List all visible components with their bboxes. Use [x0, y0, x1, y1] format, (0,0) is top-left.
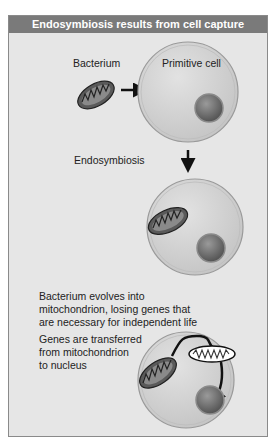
transfer-caption: Genes are transferred from mitochondrion…	[39, 333, 142, 372]
evolves-line-2: mitochondrion, losing genes that	[39, 303, 197, 316]
evolves-line-3: are necessary for independent life	[39, 316, 197, 329]
endosymbiosis-diagram	[0, 0, 276, 446]
bacterium-label: Bacterium	[73, 57, 120, 70]
endosymbiosis-label: Endosymbiosis	[74, 154, 145, 167]
transfer-line-1: Genes are transferred	[39, 333, 142, 346]
gene-dna-icon	[189, 346, 235, 362]
evolves-line-1: Bacterium evolves into	[39, 290, 197, 303]
bacterium-icon	[73, 75, 119, 114]
nucleus-icon	[195, 94, 223, 122]
transfer-line-3: to nucleus	[39, 359, 142, 372]
primitive-cell-label: Primitive cell	[162, 57, 221, 70]
transfer-line-2: from mitochondrion	[39, 346, 142, 359]
evolves-caption: Bacterium evolves into mitochondrion, lo…	[39, 290, 197, 329]
nucleus-icon	[197, 234, 225, 262]
nucleus-icon	[196, 386, 224, 414]
